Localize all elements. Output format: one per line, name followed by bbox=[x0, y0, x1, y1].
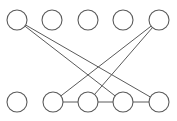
graph-edge-t5-b3 bbox=[88, 20, 159, 102]
graph-edge-t5-b2 bbox=[53, 20, 159, 102]
graph-edge-t1-b4 bbox=[17, 20, 123, 102]
graph-node-t5 bbox=[149, 10, 169, 30]
edge-layer bbox=[17, 20, 159, 102]
graph-node-t3 bbox=[78, 10, 98, 30]
graph-node-b2 bbox=[43, 92, 63, 112]
graph-node-b3 bbox=[78, 92, 98, 112]
graph-node-b5 bbox=[149, 92, 169, 112]
graph-figure bbox=[0, 0, 177, 121]
graph-node-t4 bbox=[113, 10, 133, 30]
graph-node-t2 bbox=[42, 10, 62, 30]
graph-node-t1 bbox=[7, 10, 27, 30]
graph-node-b4 bbox=[113, 92, 133, 112]
graph-edge-t1-b5 bbox=[17, 20, 159, 102]
graph-node-b1 bbox=[7, 92, 27, 112]
graph-canvas bbox=[0, 0, 177, 121]
